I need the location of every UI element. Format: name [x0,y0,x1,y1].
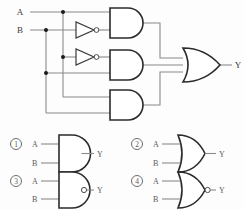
inverter-1[interactable] [76,22,99,38]
and-gate-bottom-body [110,90,143,120]
option-1-input-a-label: A [32,140,38,149]
and-gate-middle[interactable] [110,50,143,80]
option-4-number: 4 [135,177,139,186]
logic-diagram-svg: A B Y 1 A B Y 2 A B Y [0,0,244,210]
option-2-input-a-label: A [153,140,159,149]
option-3[interactable]: 3 A B Y [11,172,104,208]
or-gate-output[interactable] [183,48,220,82]
option-4-input-a-label: A [153,177,159,186]
option-1-output-label: Y [97,150,103,159]
option-2-input-b-label: B [153,159,158,168]
input-b-label: B [17,25,23,35]
option-2-number: 2 [135,140,139,149]
input-a-label: A [17,7,24,17]
option-3-invert-bubble [81,187,86,192]
option-1-input-b-label: B [32,159,37,168]
junction-dot-b [44,28,48,32]
option-3-input-b-label: B [32,195,37,204]
and-gate-bottom[interactable] [110,90,143,120]
option-2-output-label: Y [219,150,225,159]
inverter-2[interactable] [76,49,99,65]
option-2[interactable]: 2 A B Y [132,135,226,172]
option-3-output-label: Y [97,186,103,195]
junction-dot-b-middle [44,71,48,75]
option-3-input-a-label: A [32,177,38,186]
and-gate-top-body [110,8,143,38]
junction-dot-a [61,10,65,14]
and-gate-middle-body [110,50,143,80]
inverter-bubble-2 [94,55,99,60]
not-gate-triangle-2 [76,49,94,65]
not-gate-triangle-1 [76,22,94,38]
output-y-label: Y [235,60,242,70]
option-2-gate-body [178,135,205,172]
option-4[interactable]: 4 A B Y [132,172,226,208]
option-4-gate-body [178,172,205,208]
inverter-bubble-1 [94,28,99,33]
or-gate-output-body [183,48,220,82]
option-4-input-b-label: B [153,195,158,204]
wire-and-top-to-or [143,23,183,58]
wire-and-bottom-to-or [143,72,183,105]
and-gate-top[interactable] [110,8,143,38]
option-1[interactable]: 1 A B Y [11,135,104,172]
option-4-invert-bubble [205,187,210,192]
option-3-number: 3 [14,177,18,186]
diagram-canvas: A B Y 1 A B Y 2 A B Y [0,0,244,210]
option-1-number: 1 [14,140,18,149]
junction-dot-a-inverter2 [61,55,65,59]
option-4-output-label: Y [219,186,225,195]
